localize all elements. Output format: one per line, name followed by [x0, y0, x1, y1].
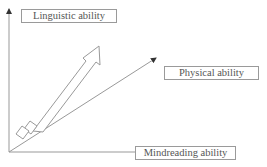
physical-ability-label: Physical ability: [164, 66, 259, 80]
mindreading-ability-label: Mindreading ability: [135, 146, 236, 160]
diagram-canvas: [0, 0, 267, 167]
block-arrow: [16, 46, 100, 139]
linguistic-ability-label: Linguistic ability: [21, 9, 117, 23]
